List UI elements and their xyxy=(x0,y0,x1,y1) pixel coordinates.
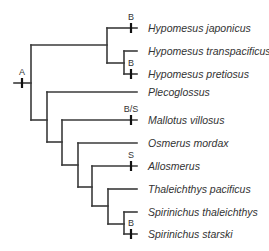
event-label: B xyxy=(128,218,134,228)
taxon-name: Hypomesus pretiosus xyxy=(148,68,250,80)
leaf-1: Hypomesus transpacificus xyxy=(124,45,269,57)
leaf-7: Thaleichthys pacificus xyxy=(108,183,251,195)
leaf-5: Osmerus mordax xyxy=(78,137,229,149)
leaf-0: BHypomesus japonicus xyxy=(107,12,251,34)
taxon-name: Osmerus mordax xyxy=(148,137,229,149)
leaf-9: BSpirinichus starski xyxy=(124,218,233,240)
phylogenetic-tree: A BHypomesus japonicusHypomesus transpac… xyxy=(0,0,269,251)
root-event-label: A xyxy=(19,67,25,77)
taxon-name: Spirinichus starski xyxy=(148,228,233,240)
taxon-name: Hypomesus transpacificus xyxy=(148,45,269,57)
leaf-8: Spirinichus thaleichthys xyxy=(124,206,258,218)
leaf-2: BHypomesus pretiosus xyxy=(124,58,250,80)
leaf-3: Plecoglossus xyxy=(47,86,211,98)
taxon-name: Spirinichus thaleichthys xyxy=(148,206,258,218)
root-node: A xyxy=(14,67,31,88)
taxon-name: Hypomesus japonicus xyxy=(148,22,251,34)
taxon-name: Plecoglossus xyxy=(148,86,211,98)
taxon-name: Mallotus villosus xyxy=(148,114,225,126)
event-label: S xyxy=(128,150,134,160)
event-label: B xyxy=(128,58,134,68)
tree-leaves: BHypomesus japonicusHypomesus transpacif… xyxy=(47,12,269,240)
leaf-6: SAllosmerus xyxy=(92,150,201,172)
taxon-name: Allosmerus xyxy=(147,160,201,172)
taxon-name: Thaleichthys pacificus xyxy=(148,183,251,195)
event-label: B xyxy=(128,12,134,22)
event-label: B/S xyxy=(124,104,139,114)
leaf-4: B/SMallotus villosus xyxy=(62,104,225,126)
tree-branches xyxy=(31,28,124,234)
